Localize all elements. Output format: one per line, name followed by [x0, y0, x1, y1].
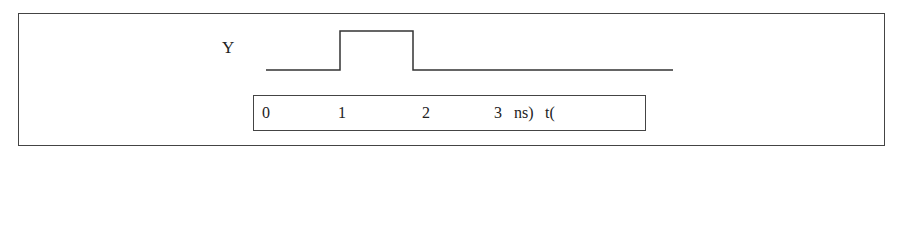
axis-label: t( — [545, 104, 555, 122]
tick-2: 2 — [422, 104, 430, 122]
tick-3: 3 — [494, 104, 502, 122]
tick-0: 0 — [262, 104, 270, 122]
time-axis: 0 1 2 3 ns) t( — [253, 95, 646, 131]
tick-1: 1 — [338, 104, 346, 122]
axis-unit: ns) — [514, 104, 534, 122]
